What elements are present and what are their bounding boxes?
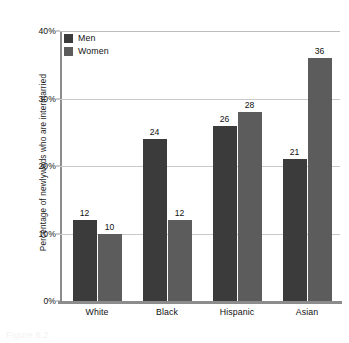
x-axis-tick-label-black: Black — [156, 307, 178, 317]
y-axis-tick-label: 40% — [16, 26, 56, 36]
bar-asian-women[interactable]: 36 — [308, 58, 332, 301]
bar-group: 2136 — [283, 31, 332, 301]
x-axis-tick-label-asian: Asian — [296, 307, 319, 317]
x-axis-tick-label-white: White — [86, 307, 109, 317]
legend-swatch-icon — [64, 34, 73, 43]
bar-value-label: 10 — [105, 222, 115, 232]
bars-layer: 1210241226282136 — [60, 31, 340, 301]
chart-legend: MenWomen — [64, 33, 109, 56]
bar-value-label: 26 — [220, 114, 230, 124]
bar-value-label: 24 — [150, 127, 160, 137]
legend-item-men[interactable]: Men — [64, 33, 109, 43]
legend-item-women[interactable]: Women — [64, 46, 109, 56]
x-axis-line — [58, 301, 342, 304]
legend-label: Men — [78, 33, 95, 43]
y-axis-tick-label: 10% — [16, 229, 56, 239]
bar-value-label: 21 — [290, 147, 300, 157]
bar-group: 2628 — [213, 31, 262, 301]
bar-group: 2412 — [143, 31, 192, 301]
legend-swatch-icon — [64, 47, 73, 56]
y-axis-tick-label: 0% — [16, 296, 56, 306]
bar-white-women[interactable]: 10 — [98, 234, 122, 302]
bar-hispanic-women[interactable]: 28 — [238, 112, 262, 301]
bar-hispanic-men[interactable]: 26 — [213, 126, 237, 302]
bar-white-men[interactable]: 12 — [73, 220, 97, 301]
plot-area: 1210241226282136 — [60, 31, 340, 301]
bar-value-label: 12 — [80, 208, 90, 218]
bar-value-label: 28 — [245, 100, 255, 110]
bar-value-label: 12 — [175, 208, 185, 218]
bar-chart-figure: Percentage of newlyweds who are intermar… — [0, 0, 349, 343]
y-axis-tick-label: 20% — [16, 161, 56, 171]
figure-caption: Figure 6.2 — [6, 330, 49, 340]
bar-value-label: 36 — [315, 46, 325, 56]
bar-black-women[interactable]: 12 — [168, 220, 192, 301]
x-axis-tick-label-hispanic: Hispanic — [220, 307, 255, 317]
y-axis-tick-label: 30% — [16, 94, 56, 104]
legend-label: Women — [78, 46, 109, 56]
bar-group: 1210 — [73, 31, 122, 301]
bar-black-men[interactable]: 24 — [143, 139, 167, 301]
bar-asian-men[interactable]: 21 — [283, 159, 307, 301]
